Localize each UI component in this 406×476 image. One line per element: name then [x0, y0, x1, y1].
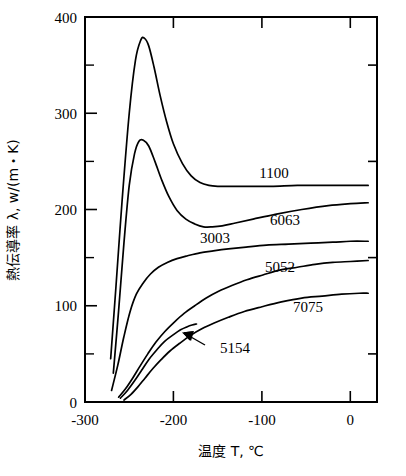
series-label-1100: 1100	[259, 165, 288, 181]
x-tick-label-m200: -200	[160, 412, 188, 428]
y-tick-label-200: 200	[55, 202, 78, 218]
y-axis-title: 熱伝導率 λ, w/(m・K)	[5, 139, 21, 281]
x-tick-label-m300: -300	[71, 412, 99, 428]
x-axis-top-ticks	[173, 17, 350, 28]
series-label-6063: 6063	[270, 212, 300, 228]
curve-6063	[113, 140, 368, 374]
x-tick-label-0: 0	[347, 412, 355, 428]
series-label-7075: 7075	[293, 299, 323, 315]
series-label-3003: 3003	[200, 230, 230, 246]
y-tick-label-0: 0	[70, 395, 78, 411]
thermal-conductivity-chart: 400 300 200 100 0 -300 -200 -100 0 1100 …	[0, 0, 406, 476]
y-tick-label-400: 400	[55, 10, 78, 26]
series-label-5154: 5154	[220, 340, 251, 356]
curve-3003	[112, 241, 369, 390]
y-axis-major-ticks	[85, 17, 97, 402]
y-tick-label-300: 300	[55, 106, 78, 122]
curve-5052	[119, 261, 369, 398]
right-axis-ticks	[368, 65, 377, 354]
curve-1100	[111, 37, 368, 358]
y-tick-label-100: 100	[55, 298, 78, 314]
x-axis-ticks	[173, 391, 350, 402]
x-tick-label-m100: -100	[248, 412, 276, 428]
series-label-5052: 5052	[265, 259, 295, 275]
x-axis-title: 温度 T, ℃	[198, 443, 264, 459]
